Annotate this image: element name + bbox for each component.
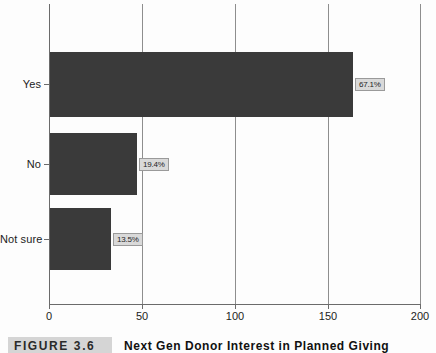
value-label-yes: 67.1%: [355, 78, 385, 91]
value-label-not-sure: 13.5%: [113, 233, 143, 246]
x-tick-label-200: 200: [400, 310, 436, 322]
x-tick-200: [420, 305, 421, 309]
figure-number-label: FIGURE 3.6: [14, 339, 95, 353]
category-label-no: No: [0, 158, 41, 170]
category-label-yes: Yes: [0, 78, 41, 90]
bar-not-sure[interactable]: [50, 208, 111, 270]
x-tick-label-0: 0: [29, 310, 69, 322]
category-label-not-sure: Not sure: [0, 233, 41, 245]
y-tick-not-sure: [44, 239, 49, 240]
x-tick-100: [235, 305, 236, 309]
bar-yes[interactable]: [50, 52, 353, 117]
gridline-100: [235, 4, 236, 304]
figure-title-label: Next Gen Donor Interest in Planned Givin…: [124, 339, 389, 353]
x-tick-label-100: 100: [215, 310, 255, 322]
y-tick-no: [44, 164, 49, 165]
gridline-50: [142, 4, 143, 304]
bar-no[interactable]: [50, 133, 137, 195]
y-tick-yes: [44, 84, 49, 85]
figure-container: Yes No Not sure 67.1% 19.4% 13.5% 0 50 1…: [0, 0, 436, 353]
value-label-no: 19.4%: [139, 158, 169, 171]
x-tick-150: [328, 305, 329, 309]
x-tick-label-150: 150: [308, 310, 348, 322]
gridline-200: [420, 4, 421, 304]
x-tick-0: [49, 305, 50, 309]
x-tick-50: [142, 305, 143, 309]
gridline-150: [328, 4, 329, 304]
chart-plot-area: Yes No Not sure 67.1% 19.4% 13.5% 0 50 1…: [0, 0, 436, 316]
x-tick-label-50: 50: [122, 310, 162, 322]
figure-caption: FIGURE 3.6 Next Gen Donor Interest in Pl…: [0, 337, 436, 353]
